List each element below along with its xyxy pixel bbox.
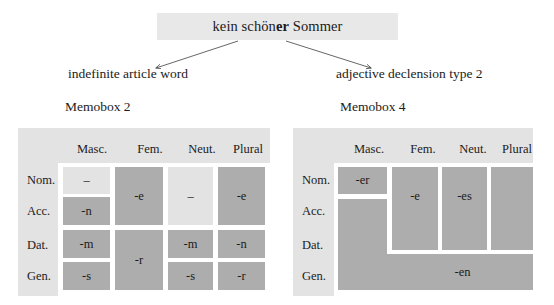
right-cell-nom-masc: -er	[338, 167, 387, 194]
right-row-header-nom: Nom.	[302, 173, 330, 188]
right-cell-nomacc-plural	[491, 167, 533, 250]
right-cell-nomacc-neut: -es	[442, 167, 487, 250]
left-cell-dat-masc: -m	[63, 230, 110, 258]
left-col-header-masc: Masc.	[64, 142, 120, 157]
left-cell-nomacc-plural: -e	[218, 167, 265, 225]
memobox-left-caption: Memobox 2	[65, 99, 131, 115]
left-cell-nomacc-fem: -e	[115, 167, 163, 225]
branch-label-indefinite-article-word: indefinite article word	[68, 66, 188, 82]
right-col-header-masc: Masc.	[341, 142, 397, 157]
right-col-header-fem: Fem.	[397, 142, 449, 157]
left-row-header-acc: Acc.	[27, 204, 50, 219]
right-cell-nomacc-fem: -e	[392, 167, 438, 250]
title-segment-2: Sommer	[289, 18, 342, 34]
left-col-header-fem: Fem.	[124, 142, 176, 157]
title-segment-bold: er	[276, 18, 289, 34]
left-cell-dat-neut: -m	[168, 230, 213, 258]
left-cell-gen-neut: -s	[168, 262, 213, 290]
left-col-header-neut: Neut.	[175, 142, 229, 157]
arrow-left-branch	[156, 41, 238, 68]
page-title: kein schöner Sommer	[213, 18, 343, 35]
arrow-right-branch	[286, 41, 371, 68]
memobox-right-table: Masc. Fem. Neut. Plural Nom. Acc. Dat. G…	[293, 128, 533, 296]
right-col-header-plural: Plural	[493, 142, 541, 157]
left-row-header-dat: Dat.	[27, 238, 48, 253]
left-cell-datgen-fem: -r	[115, 230, 163, 290]
right-row-header-gen: Gen.	[302, 269, 326, 284]
right-cell-en-band: -en	[392, 254, 533, 290]
title-segment-1: kein schön	[213, 18, 276, 34]
right-row-header-acc: Acc.	[302, 204, 325, 219]
left-cell-dat-plural: -n	[218, 230, 265, 258]
left-cell-gen-plural: -r	[218, 262, 265, 290]
left-cell-nomacc-neut: –	[168, 167, 213, 225]
branch-label-adjective-declension-type-2: adjective declension type 2	[336, 66, 483, 82]
left-col-header-plural: Plural	[224, 142, 272, 157]
left-cell-nom-masc: –	[63, 167, 110, 194]
right-col-header-neut: Neut.	[446, 142, 500, 157]
left-row-header-nom: Nom.	[27, 173, 55, 188]
left-row-header-gen: Gen.	[27, 269, 51, 284]
left-cell-acc-masc: -n	[63, 197, 110, 225]
left-cell-gen-masc: -s	[63, 262, 110, 290]
memobox-right-caption: Memobox 4	[340, 99, 406, 115]
right-row-header-dat: Dat.	[302, 238, 323, 253]
title-banner: kein schöner Sommer	[157, 13, 398, 40]
memobox-left-table: Masc. Fem. Neut. Plural Nom. Acc. Dat. G…	[18, 128, 270, 296]
